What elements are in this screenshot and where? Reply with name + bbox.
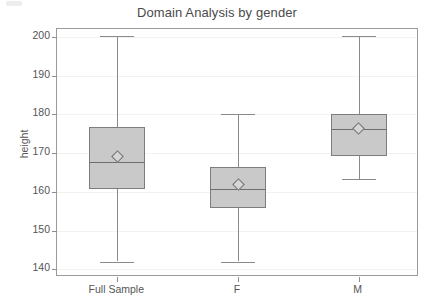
x-tick-mark: [238, 277, 239, 282]
plot-area: [56, 28, 418, 276]
y-tick-label: 160: [0, 184, 50, 196]
x-tick-mark: [117, 277, 118, 282]
box-series: [57, 29, 417, 275]
whisker-cap-upper: [221, 114, 255, 115]
x-tick-label: Full Sample: [56, 283, 176, 295]
whisker-cap-lower: [342, 179, 376, 180]
chart-title: Domain Analysis by gender: [0, 5, 434, 20]
whisker-cap-lower: [221, 262, 255, 263]
x-tick-mark: [359, 277, 360, 282]
y-tick-label: 200: [0, 29, 50, 41]
box-rect: [331, 114, 387, 156]
whisker-cap-upper: [342, 36, 376, 37]
whisker-cap-lower: [100, 262, 134, 263]
y-tick-label: 150: [0, 223, 50, 235]
y-tick-label: 140: [0, 261, 50, 273]
whisker-line: [359, 36, 360, 179]
x-tick-label: M: [298, 283, 418, 295]
boxplot-chart: Domain Analysis by gender height 1401501…: [0, 0, 434, 308]
y-tick-label: 190: [0, 68, 50, 80]
y-tick-label: 180: [0, 106, 50, 118]
whisker-cap-upper: [100, 36, 134, 37]
x-tick-label: F: [177, 283, 297, 295]
y-tick-label: 170: [0, 145, 50, 157]
